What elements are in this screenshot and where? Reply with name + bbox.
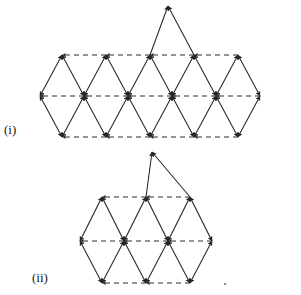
lattice-diagram: [0, 0, 301, 295]
figure-ii-diagonals: [80, 197, 212, 283]
figure-ii-group: [80, 152, 212, 283]
page-speck: [224, 283, 226, 285]
figure-i-group: [40, 6, 260, 137]
figure-i-label: (i): [4, 122, 16, 138]
figure-ii-spike: [146, 152, 190, 197]
figure-ii-label: (ii): [32, 270, 48, 286]
figure-i-spike: [150, 6, 194, 55]
